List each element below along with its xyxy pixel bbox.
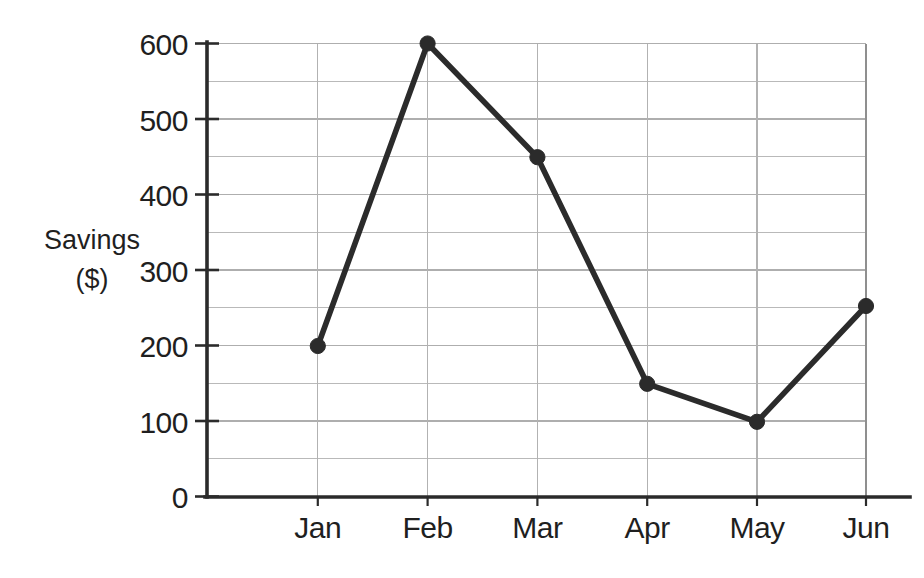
y-tick-label-0: 0 <box>172 481 188 514</box>
y-tick-label-100: 100 <box>139 406 188 439</box>
x-tick-label-mar: Mar <box>512 511 563 544</box>
savings-line-chart: 600 500 400 300 200 100 0 Jan Feb Mar Ap… <box>0 0 924 578</box>
x-tick-label-jun: Jun <box>843 511 890 544</box>
y-tick-label-300: 300 <box>139 255 188 288</box>
y-axis-title-line2: ($) <box>76 264 109 294</box>
x-axis-tick-labels: Jan Feb Mar Apr May Jun <box>294 511 889 544</box>
y-axis-tick-labels: 600 500 400 300 200 100 0 <box>139 28 188 514</box>
y-axis-title: Savings ($) <box>44 225 140 294</box>
y-tick-label-400: 400 <box>139 179 188 212</box>
y-tick-label-600: 600 <box>139 28 188 61</box>
chart-container: 600 500 400 300 200 100 0 Jan Feb Mar Ap… <box>0 0 924 578</box>
y-axis-title-line1: Savings <box>44 225 140 255</box>
data-point-mar <box>530 150 545 165</box>
x-tick-label-jan: Jan <box>294 511 341 544</box>
y-tick-label-200: 200 <box>139 330 188 363</box>
x-tick-label-apr: Apr <box>625 511 671 544</box>
data-point-jan <box>310 338 325 353</box>
x-tick-label-feb: Feb <box>402 511 452 544</box>
y-tick-label-500: 500 <box>139 104 188 137</box>
data-point-jun <box>858 298 873 313</box>
data-point-apr <box>640 376 655 391</box>
data-point-may <box>749 414 764 429</box>
data-point-feb <box>420 36 435 51</box>
x-tick-label-may: May <box>729 511 785 544</box>
